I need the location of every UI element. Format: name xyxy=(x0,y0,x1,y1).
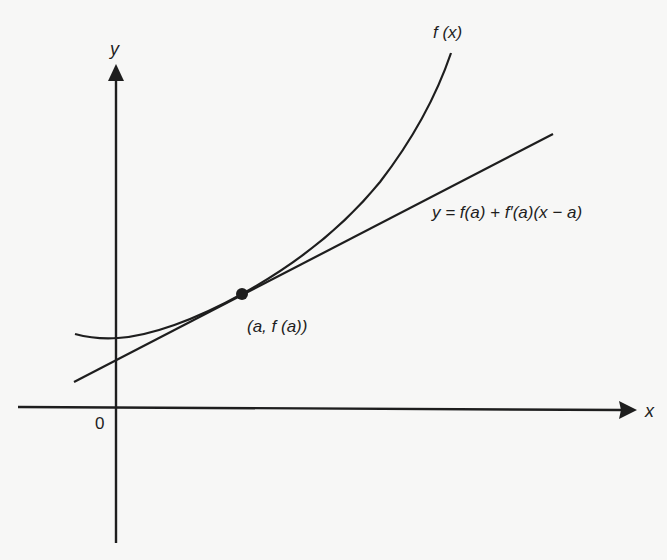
x-axis xyxy=(18,407,622,410)
function-curve xyxy=(75,53,451,338)
curve-label-text: f (x) xyxy=(433,23,462,42)
x-axis-label: x xyxy=(645,402,654,420)
tangent-line xyxy=(74,134,553,382)
tangent-point-label: (a, f (a)) xyxy=(247,318,307,335)
tangent-line-equation: y = f(a) + f′(a)(x − a) xyxy=(432,203,582,222)
curve-label: f (x) xyxy=(433,24,462,41)
tangent-point-coordinates: (a, f (a)) xyxy=(247,317,307,336)
tangent-line-label: y = f(a) + f′(a)(x − a) xyxy=(432,204,582,221)
origin-label: 0 xyxy=(95,415,104,432)
y-axis-arrow-icon xyxy=(108,64,124,81)
tangent-point-marker xyxy=(236,288,248,300)
diagram-canvas xyxy=(0,0,667,560)
x-axis-arrow-icon xyxy=(619,401,637,419)
y-axis-label: y xyxy=(110,40,119,58)
